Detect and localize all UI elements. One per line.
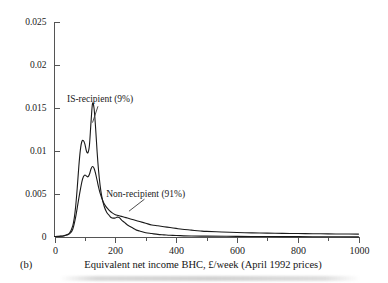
x-axis-ticks: 02004006008001000 — [53, 237, 370, 256]
y-tick-label: 0 — [42, 232, 47, 242]
x-tick-label: 0 — [53, 245, 58, 256]
x-tick-label: 600 — [230, 245, 245, 256]
y-tick-label: 0.015 — [25, 103, 47, 113]
chart-annotations: IS-recipient (9%)Non-recipient (91%) — [67, 94, 185, 211]
x-tick-label: 1000 — [350, 245, 370, 256]
chart-canvas: 00.0050.010.0150.020.025 020040060080010… — [0, 0, 388, 283]
x-tick-label: 200 — [108, 245, 123, 256]
x-axis-label: Equivalent net income BHC, £/week (April… — [84, 259, 322, 271]
y-tick-label: 0.02 — [30, 60, 47, 70]
panel-tag: (b) — [20, 259, 33, 271]
y-tick-label: 0.025 — [25, 17, 47, 27]
x-tick-label: 400 — [169, 245, 184, 256]
is-recipient-annotation-label: IS-recipient (9%) — [67, 94, 133, 105]
page-artifact-smudge — [60, 276, 360, 281]
x-tick-label: 800 — [291, 245, 306, 256]
y-tick-label: 0.01 — [30, 146, 47, 156]
curve-non-recipient — [55, 166, 359, 236]
y-tick-label: 0.005 — [25, 189, 47, 199]
density-chart-figure: 00.0050.010.0150.020.025 020040060080010… — [0, 0, 388, 283]
non-recipient-annotation-label: Non-recipient (91%) — [106, 189, 185, 200]
non-recipient-annotation-leader-line — [129, 199, 145, 211]
curve-is-recipient — [55, 103, 359, 237]
